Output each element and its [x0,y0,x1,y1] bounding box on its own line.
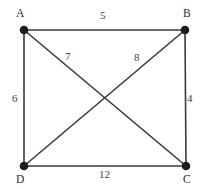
edge-weight-a-d: 6 [12,93,18,104]
graph-canvas [0,0,203,189]
vertex-dot-c [182,162,191,171]
weighted-graph-diagram: A B C D 5 4 12 6 7 8 [0,0,203,189]
vertex-label-b: B [183,8,191,20]
vertex-dot-b [181,26,190,35]
vertex-label-c: C [183,174,191,186]
edge-weight-a-c: 7 [65,51,71,62]
vertex-dot-d [20,162,29,171]
edge-weight-d-c: 12 [99,169,110,180]
edge-weight-b-c: 4 [187,93,193,104]
vertex-label-a: A [16,8,24,20]
vertex-dot-a [20,26,29,35]
edge-weight-b-d: 8 [134,52,140,63]
edge-b-c [185,30,186,166]
vertex-label-d: D [16,174,24,186]
edge-weight-a-b: 5 [100,10,106,21]
